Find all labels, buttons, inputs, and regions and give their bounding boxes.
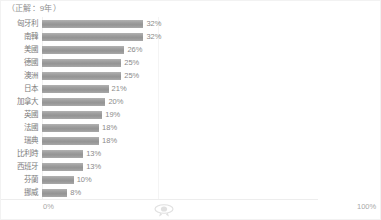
bar-fill: [42, 72, 121, 80]
bar-value-label: 25%: [122, 56, 139, 70]
bar-value-label: 21%: [110, 82, 127, 96]
bar: [42, 163, 83, 171]
bar: [42, 85, 109, 93]
bar-category-label: 南韓: [24, 30, 38, 44]
bar-category-label: 匈牙利: [17, 17, 38, 31]
bar-row: 芬蘭10%: [42, 173, 359, 186]
bar: [42, 111, 102, 119]
chart-frame: （正解：9年） 匈牙利32%南韓32%美國26%德國25%澳洲25%日本21%加…: [0, 0, 381, 220]
bar-value-label: 18%: [100, 134, 117, 148]
bar: [42, 189, 67, 197]
bar-row: 美國26%: [42, 43, 359, 56]
bar-fill: [42, 176, 74, 184]
bar-category-label: 日本: [24, 82, 38, 96]
bar-category-label: 比利時: [17, 147, 38, 161]
bar-row: 日本21%: [42, 82, 359, 95]
bar: [42, 124, 99, 132]
plot-area: 匈牙利32%南韓32%美國26%德國25%澳洲25%日本21%加拿大20%英國1…: [42, 17, 359, 199]
bar-value-label: 10%: [75, 173, 92, 187]
bar-value-label: 26%: [125, 43, 142, 57]
bar-row: 德國25%: [42, 56, 359, 69]
bar-value-label: 20%: [106, 95, 123, 109]
bar-fill: [42, 85, 109, 93]
bar-category-label: 澳洲: [24, 69, 38, 83]
bar-fill: [42, 98, 105, 106]
bar-row: 加拿大20%: [42, 95, 359, 108]
bar-fill: [42, 124, 99, 132]
bar-fill: [42, 150, 83, 158]
x-axis-tick-min: 0%: [43, 202, 54, 211]
x-axis-tick-max: 100%: [357, 202, 376, 211]
bar-row: 澳洲25%: [42, 69, 359, 82]
bar-fill: [42, 59, 121, 67]
x-axis-line: [1, 199, 318, 200]
bar: [42, 176, 74, 184]
bar-category-label: 美國: [24, 43, 38, 57]
bar-fill: [42, 46, 124, 54]
bar: [42, 98, 105, 106]
bar: [42, 20, 143, 28]
bar-category-label: 德國: [24, 56, 38, 70]
bar: [42, 46, 124, 54]
bar-value-label: 13%: [84, 160, 101, 174]
bar-category-label: 英國: [24, 108, 38, 122]
bar-row: 匈牙利32%: [42, 17, 359, 30]
bar-category-label: 法國: [24, 121, 38, 135]
bar-row: 比利時13%: [42, 147, 359, 160]
bar: [42, 137, 99, 145]
bar-fill: [42, 189, 67, 197]
bar-fill: [42, 33, 143, 41]
bar-category-label: 加拿大: [17, 95, 38, 109]
bar-row: 法國18%: [42, 121, 359, 134]
chart-title: （正解：9年）: [7, 4, 61, 14]
bar-row: 南韓32%: [42, 30, 359, 43]
bar-series: 匈牙利32%南韓32%美國26%德國25%澳洲25%日本21%加拿大20%英國1…: [42, 17, 359, 199]
bar: [42, 59, 121, 67]
bar-row: 西班牙13%: [42, 160, 359, 173]
bar-value-label: 32%: [144, 17, 161, 31]
bar-row: 挪威8%: [42, 186, 359, 199]
bar-category-label: 芬蘭: [24, 173, 38, 187]
bar: [42, 33, 143, 41]
bar-value-label: 8%: [68, 186, 81, 200]
bar-value-label: 18%: [100, 121, 117, 135]
bar-value-label: 25%: [122, 69, 139, 83]
bar-category-label: 瑞典: [24, 134, 38, 148]
bar-value-label: 13%: [84, 147, 101, 161]
ribbon-badge-icon: [153, 203, 175, 217]
bar-value-label: 32%: [144, 30, 161, 44]
bar-row: 英國19%: [42, 108, 359, 121]
bar-fill: [42, 137, 99, 145]
bar-category-label: 挪威: [24, 186, 38, 200]
bar-value-label: 19%: [103, 108, 120, 122]
bar: [42, 72, 121, 80]
bar-category-label: 西班牙: [17, 160, 38, 174]
bar-fill: [42, 20, 143, 28]
bar-fill: [42, 163, 83, 171]
bar-fill: [42, 111, 102, 119]
bar: [42, 150, 83, 158]
bar-row: 瑞典18%: [42, 134, 359, 147]
